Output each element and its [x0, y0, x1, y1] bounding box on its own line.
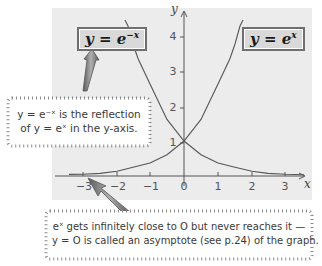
asymptote-note-line-1: eˣ gets infinitely close to O but never …: [52, 220, 306, 234]
y-axis-label: y: [171, 2, 178, 16]
y-tick-label: 1: [170, 136, 177, 149]
x-tick-label: 2: [249, 180, 256, 193]
label-left-exponent: −x: [126, 30, 139, 40]
asymptote-note: eˣ gets infinitely close to O but never …: [52, 220, 306, 248]
reflection-note-line-1: y = e⁻ˣ is the reflection: [15, 107, 143, 121]
reflection-note-line-2: of y = eˣ in the y-axis.: [15, 121, 143, 135]
label-box-exp-x: y = ex: [242, 27, 305, 51]
label-right-exponent: x: [291, 30, 296, 40]
x-tick-label: −2: [110, 180, 126, 193]
label-box-exp-neg-x: y = e−x: [77, 27, 147, 51]
x-tick-label: −1: [143, 180, 159, 193]
x-tick-label: 0: [181, 180, 188, 193]
reflection-note: y = e⁻ˣ is the reflection of y = eˣ in t…: [15, 107, 143, 135]
label-right-prefix: y = e: [250, 30, 291, 48]
x-tick-label: −3: [76, 180, 92, 193]
x-tick-label: 3: [282, 180, 289, 193]
y-tick-label: 2: [170, 101, 177, 114]
y-tick-label: 4: [170, 30, 177, 43]
asymptote-note-line-2: y = O is called an asymptote (see p.24) …: [52, 234, 306, 248]
y-tick-label: 3: [170, 65, 177, 78]
x-axis-label: x: [304, 177, 311, 191]
label-left-prefix: y = e: [85, 30, 126, 48]
x-tick-label: 1: [215, 180, 222, 193]
